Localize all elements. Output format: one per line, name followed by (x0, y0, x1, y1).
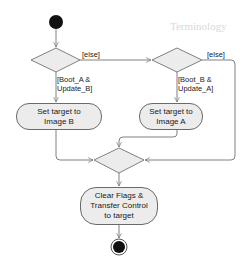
action-set-target-image-b: Set target to Image B (16, 103, 102, 130)
edge-imagea-to-merge (119, 130, 177, 147)
guard-label-boot-a-line2: Update_B] (57, 84, 92, 93)
action-clear-flags-transfer-control: Clear Flags & Transfer Control to target (80, 187, 158, 225)
initial-node (49, 15, 63, 29)
action-clear-line1: Clear Flags & (90, 191, 148, 201)
action-image-b-line1: Set target to (37, 107, 81, 117)
edge-imageb-to-merge (56, 130, 93, 160)
action-clear-line2: Transfer Control (90, 201, 148, 211)
guard-label-boot-b: [Boot_B & Update_A] (178, 75, 213, 93)
activity-diagram-canvas (0, 0, 248, 275)
action-image-a-line2: Image A (149, 117, 193, 127)
merge-node (94, 148, 144, 173)
guard-label-boot-a-line1: [Boot_A & (57, 75, 92, 84)
decision-node-1 (31, 48, 80, 72)
else-guard-label-1: [else] (82, 50, 100, 59)
guard-label-boot-b-line1: [Boot_B & (178, 75, 213, 84)
guard-label-boot-b-line2: Update_A] (178, 84, 213, 93)
action-image-b-line2: Image B (37, 117, 81, 127)
guard-label-boot-a: [Boot_A & Update_B] (57, 75, 92, 93)
action-clear-line3: to target (90, 211, 148, 221)
else-guard-label-2: [else] (207, 50, 225, 59)
final-node (113, 241, 125, 253)
action-set-target-image-a: Set target to Image A (139, 103, 203, 130)
decision-node-2 (152, 48, 202, 72)
action-image-a-line1: Set target to (149, 107, 193, 117)
